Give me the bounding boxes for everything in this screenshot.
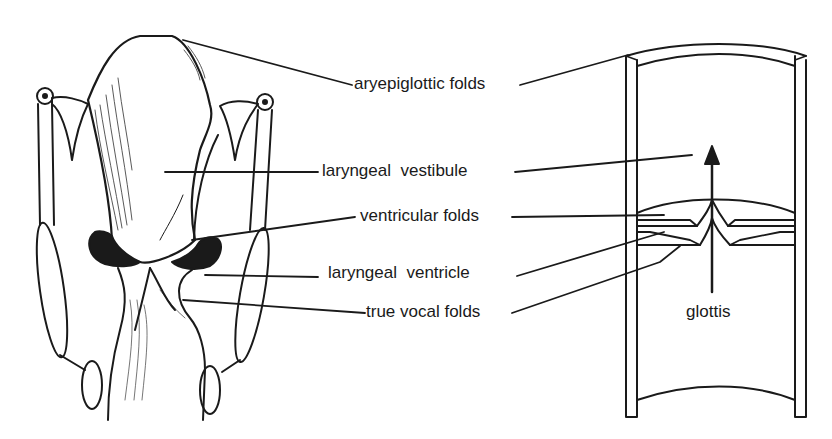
label-true-vocal-folds: true vocal folds — [366, 302, 480, 322]
larynx-diagram: aryepiglottic folds laryngeal vestibule … — [0, 0, 832, 439]
label-laryngeal-ventricle: laryngeal ventricle — [328, 263, 470, 283]
label-ventricular-folds: ventricular folds — [360, 206, 479, 226]
label-glottis: glottis — [686, 302, 730, 322]
label-laryngeal-vestibule: laryngeal vestibule — [322, 161, 468, 181]
larynx-anatomical-drawing — [31, 36, 276, 420]
label-aryepiglottic-folds: aryepiglottic folds — [354, 74, 485, 94]
laryngeal-tube-schematic — [626, 44, 806, 417]
